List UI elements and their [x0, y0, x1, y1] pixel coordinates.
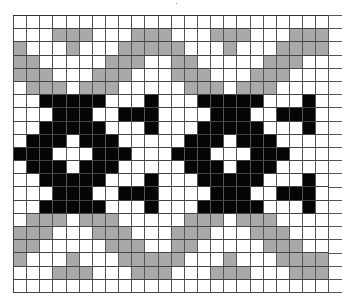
chart-cell	[264, 122, 277, 135]
chart-cell	[185, 174, 198, 187]
chart-cell	[119, 135, 132, 148]
chart-cell	[211, 227, 224, 240]
chart-cell	[211, 56, 224, 69]
chart-cell	[119, 161, 132, 174]
chart-cell	[251, 108, 264, 121]
chart-cell	[224, 42, 237, 55]
chart-cell	[224, 95, 237, 108]
chart-cell	[40, 214, 53, 227]
chart-cell	[106, 267, 119, 280]
chart-cell	[251, 174, 264, 187]
chart-cell	[93, 201, 106, 214]
chart-cell	[237, 214, 250, 227]
grid-line-extension	[328, 147, 342, 148]
chart-cell	[198, 69, 211, 82]
chart-cell	[53, 95, 66, 108]
chart-cell	[224, 108, 237, 121]
chart-cell	[316, 29, 329, 42]
chart-cell	[67, 82, 80, 95]
chart-cell	[145, 201, 158, 214]
chart-cell	[106, 108, 119, 121]
chart-cell	[303, 253, 316, 266]
chart-cell	[198, 214, 211, 227]
chart-cell	[277, 82, 290, 95]
chart-cell	[132, 174, 145, 187]
chart-cell	[290, 187, 303, 200]
chart-cell	[145, 148, 158, 161]
chart-cell	[53, 148, 66, 161]
chart-cell	[290, 214, 303, 227]
chart-cell	[145, 240, 158, 253]
chart-cell	[277, 42, 290, 55]
chart-cell	[290, 267, 303, 280]
chart-cell	[145, 56, 158, 69]
chart-cell	[132, 135, 145, 148]
grid-line-extension	[328, 41, 342, 42]
chart-cell	[80, 122, 93, 135]
chart-cell	[159, 69, 172, 82]
chart-cell	[93, 42, 106, 55]
chart-cell	[132, 148, 145, 161]
chart-cell	[237, 29, 250, 42]
chart-cell	[93, 29, 106, 42]
chart-cell	[264, 69, 277, 82]
chart-cell	[27, 108, 40, 121]
grid-line-extension	[328, 81, 342, 82]
grid-line-extension	[328, 266, 342, 267]
chart-cell	[290, 227, 303, 240]
grid-line-extension	[328, 173, 342, 174]
chart-cell	[53, 267, 66, 280]
chart-cell	[172, 82, 185, 95]
chart-cell	[277, 29, 290, 42]
chart-cell	[27, 161, 40, 174]
grid-line-extension	[328, 279, 342, 280]
chart-cell	[132, 187, 145, 200]
chart-cell	[40, 174, 53, 187]
chart-cell	[251, 56, 264, 69]
chart-cell	[67, 29, 80, 42]
chart-cell	[40, 69, 53, 82]
chart-cell	[224, 280, 237, 293]
chart-cell	[251, 122, 264, 135]
chart-cell	[172, 267, 185, 280]
chart-cell	[40, 227, 53, 240]
chart-cell	[106, 240, 119, 253]
chart-cell	[172, 95, 185, 108]
chart-cell	[80, 135, 93, 148]
chart-cell	[53, 214, 66, 227]
chart-cell	[251, 201, 264, 214]
chart-cell	[185, 82, 198, 95]
chart-cell	[211, 82, 224, 95]
chart-cell	[145, 95, 158, 108]
chart-cell	[211, 187, 224, 200]
chart-cell	[27, 253, 40, 266]
chart-cell	[159, 267, 172, 280]
chart-cell	[106, 174, 119, 187]
chart-cell	[172, 148, 185, 161]
chart-cell	[80, 42, 93, 55]
chart-cell	[106, 29, 119, 42]
chart-cell	[303, 135, 316, 148]
chart-cell	[119, 69, 132, 82]
chart-cell	[303, 240, 316, 253]
chart-cell	[93, 82, 106, 95]
chart-cell	[316, 240, 329, 253]
chart-cell	[53, 16, 66, 29]
grid-line-extension	[328, 94, 342, 95]
chart-cell	[251, 16, 264, 29]
chart-cell	[80, 161, 93, 174]
chart-cell	[198, 16, 211, 29]
chart-cell	[264, 56, 277, 69]
chart-cell	[185, 122, 198, 135]
chart-cell	[53, 227, 66, 240]
chart-cell	[237, 16, 250, 29]
chart-cell	[198, 42, 211, 55]
grid-line-extension	[328, 134, 342, 135]
chart-cell	[237, 95, 250, 108]
chart-cell	[80, 214, 93, 227]
chart-cell	[198, 174, 211, 187]
chart-cell	[185, 240, 198, 253]
chart-cell	[14, 148, 27, 161]
chart-cell	[145, 161, 158, 174]
chart-cell	[106, 201, 119, 214]
